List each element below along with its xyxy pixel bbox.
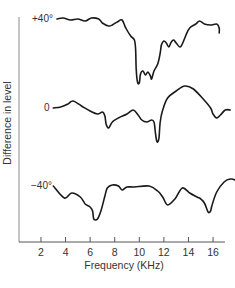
x-tick-label: 12 — [158, 246, 170, 258]
x-tick-label: 10 — [133, 246, 145, 258]
curves — [53, 18, 235, 220]
x-tick-label: 2 — [38, 246, 44, 258]
chart-canvas — [0, 0, 235, 288]
curve-minus40 — [53, 179, 235, 220]
curve-plus40 — [57, 18, 219, 84]
y-axis-label: Difference in level — [1, 81, 13, 164]
series-label-minus40: −40° — [31, 180, 52, 191]
x-tick-label: 8 — [112, 246, 118, 258]
x-axis-label: Frequency (KHz) — [84, 259, 163, 271]
x-axis-ticks — [41, 237, 213, 242]
series-label-plus40: +40° — [32, 13, 53, 24]
series-label-zero: 0 — [44, 102, 50, 113]
x-tick-label: 6 — [87, 246, 93, 258]
curve-zero — [53, 86, 230, 142]
x-tick-label: 16 — [207, 246, 219, 258]
x-tick-label: 4 — [63, 246, 69, 258]
x-tick-label: 14 — [183, 246, 195, 258]
